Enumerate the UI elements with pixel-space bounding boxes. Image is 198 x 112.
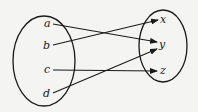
codomain-label-z: z	[159, 64, 166, 77]
codomain-label-x: x	[160, 13, 167, 26]
domain-label-b: b	[43, 39, 50, 52]
mapping-diagram: a b c d x y z	[0, 0, 198, 112]
domain-label-c: c	[44, 63, 50, 76]
codomain-label-y: y	[158, 38, 166, 51]
domain-label-d: d	[43, 87, 50, 100]
domain-label-a: a	[44, 17, 51, 30]
